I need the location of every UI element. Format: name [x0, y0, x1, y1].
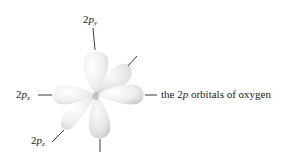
label-2px: 2px: [16, 89, 30, 102]
label-2pz-sub: z: [42, 140, 45, 148]
label-2py: 2py: [83, 14, 97, 27]
nucleus-shadow: [93, 92, 99, 100]
leader-line-back: [128, 56, 137, 66]
label-2py-sub: y: [94, 19, 97, 27]
leader-line-py: [93, 28, 95, 50]
p-orbitals-diagram: [0, 0, 300, 163]
caption-before: the 2: [161, 88, 183, 100]
label-2pz: 2pz: [31, 135, 45, 148]
label-2px-sub: x: [27, 94, 30, 102]
leader-line-pz: [52, 130, 64, 142]
caption-after: orbitals of oxygen: [188, 88, 271, 100]
caption-label: the 2p orbitals of oxygen: [161, 89, 271, 100]
